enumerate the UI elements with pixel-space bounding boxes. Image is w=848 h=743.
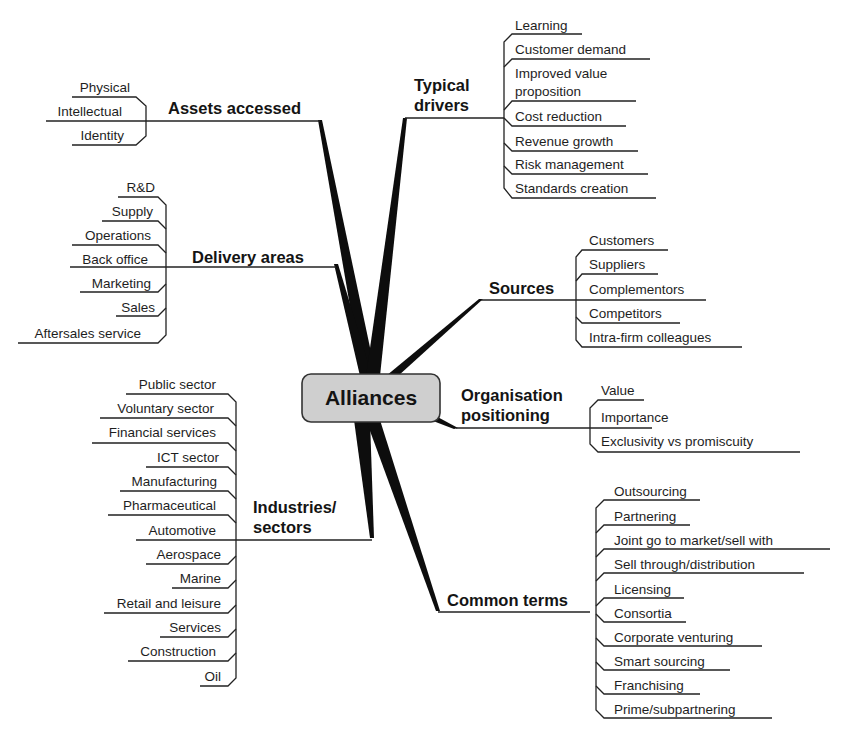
- list-item[interactable]: Sales: [121, 300, 155, 315]
- assets-accessed-items: Physical Intellectual Identity: [57, 80, 130, 143]
- list-item[interactable]: Identity: [80, 128, 124, 143]
- list-item[interactable]: Licensing: [614, 582, 671, 597]
- list-item[interactable]: Corporate venturing: [614, 630, 733, 645]
- list-item[interactable]: Voluntary sector: [117, 401, 214, 416]
- industries-items: Public sector Voluntary sector Financial…: [109, 377, 222, 684]
- list-item[interactable]: Back office: [82, 252, 148, 267]
- list-item[interactable]: Manufacturing: [131, 474, 217, 489]
- list-item[interactable]: Revenue growth: [515, 134, 613, 149]
- list-item[interactable]: Aerospace: [156, 547, 221, 562]
- branch-label-typical-drivers-line2[interactable]: drivers: [414, 96, 469, 114]
- list-item[interactable]: Competitors: [589, 306, 662, 321]
- mind-map: Alliances Assets accessed Delivery areas…: [0, 0, 848, 743]
- branch-label-sources[interactable]: Sources: [489, 279, 554, 297]
- org-positioning-items: Value Importance Exclusivity vs promiscu…: [601, 383, 754, 449]
- list-item[interactable]: Complementors: [589, 282, 685, 297]
- list-item[interactable]: Partnering: [614, 509, 676, 524]
- list-item-line1[interactable]: Improved value: [515, 66, 607, 81]
- list-item[interactable]: Operations: [85, 228, 151, 243]
- list-item-line2: proposition: [515, 84, 581, 99]
- list-item[interactable]: Prime/subpartnering: [614, 702, 736, 717]
- list-item[interactable]: Sell through/distribution: [614, 557, 755, 572]
- branch-label-assets-accessed[interactable]: Assets accessed: [168, 99, 301, 117]
- list-item[interactable]: Importance: [601, 410, 669, 425]
- list-item[interactable]: Franchising: [614, 678, 684, 693]
- list-item[interactable]: Value: [601, 383, 635, 398]
- list-item[interactable]: Financial services: [109, 425, 217, 440]
- list-item[interactable]: Automotive: [148, 523, 216, 538]
- typical-drivers-items: Learning Customer demand Improved value …: [515, 18, 628, 196]
- spoke-sources: [386, 299, 483, 376]
- list-item[interactable]: Exclusivity vs promiscuity: [601, 434, 754, 449]
- center-node-label: Alliances: [325, 386, 417, 409]
- list-item[interactable]: Aftersales service: [34, 326, 141, 341]
- list-item[interactable]: R&D: [126, 180, 155, 195]
- spoke-industries: [354, 420, 374, 538]
- list-item[interactable]: Public sector: [139, 377, 217, 392]
- list-item[interactable]: Physical: [80, 80, 130, 95]
- branch-label-org-positioning-line2[interactable]: positioning: [461, 406, 550, 424]
- list-item[interactable]: Joint go to market/sell with: [614, 533, 773, 548]
- list-item[interactable]: Marine: [180, 571, 221, 586]
- list-item[interactable]: Risk management: [515, 157, 624, 172]
- branch-label-delivery-areas[interactable]: Delivery areas: [192, 248, 304, 266]
- branch-label-org-positioning-line1[interactable]: Organisation: [461, 386, 563, 404]
- list-item[interactable]: Retail and leisure: [117, 596, 221, 611]
- list-item[interactable]: Intellectual: [57, 104, 122, 119]
- common-terms-items: Outsourcing Partnering Joint go to marke…: [614, 484, 773, 717]
- list-item[interactable]: Cost reduction: [515, 109, 602, 124]
- list-item[interactable]: Customer demand: [515, 42, 626, 57]
- spokes: [318, 118, 483, 611]
- spoke-typical-drivers: [366, 118, 407, 376]
- branch-label-industries-line2[interactable]: sectors: [253, 518, 312, 536]
- list-item[interactable]: Oil: [205, 669, 222, 684]
- spoke-common-terms: [366, 420, 440, 611]
- list-item[interactable]: Standards creation: [515, 181, 628, 196]
- list-item[interactable]: ICT sector: [157, 450, 220, 465]
- list-item[interactable]: Construction: [140, 644, 216, 659]
- list-item[interactable]: Outsourcing: [614, 484, 687, 499]
- branch-label-typical-drivers-line1[interactable]: Typical: [414, 76, 470, 94]
- list-item[interactable]: Suppliers: [589, 257, 646, 272]
- list-item[interactable]: Services: [169, 620, 221, 635]
- list-item[interactable]: Customers: [589, 233, 655, 248]
- branch-label-industries-line1[interactable]: Industries/: [253, 498, 337, 516]
- list-item[interactable]: Smart sourcing: [614, 654, 705, 669]
- spoke-assets-accessed: [318, 120, 376, 376]
- list-item[interactable]: Intra-firm colleagues: [589, 330, 712, 345]
- list-item[interactable]: Learning: [515, 18, 568, 33]
- list-item[interactable]: Consortia: [614, 606, 672, 621]
- list-item[interactable]: Pharmaceutical: [123, 498, 216, 513]
- center-node[interactable]: Alliances: [302, 374, 440, 422]
- branch-label-common-terms[interactable]: Common terms: [447, 591, 568, 609]
- list-item[interactable]: Marketing: [92, 276, 151, 291]
- list-item[interactable]: Supply: [112, 204, 154, 219]
- delivery-areas-items: R&D Supply Operations Back office Market…: [34, 180, 155, 341]
